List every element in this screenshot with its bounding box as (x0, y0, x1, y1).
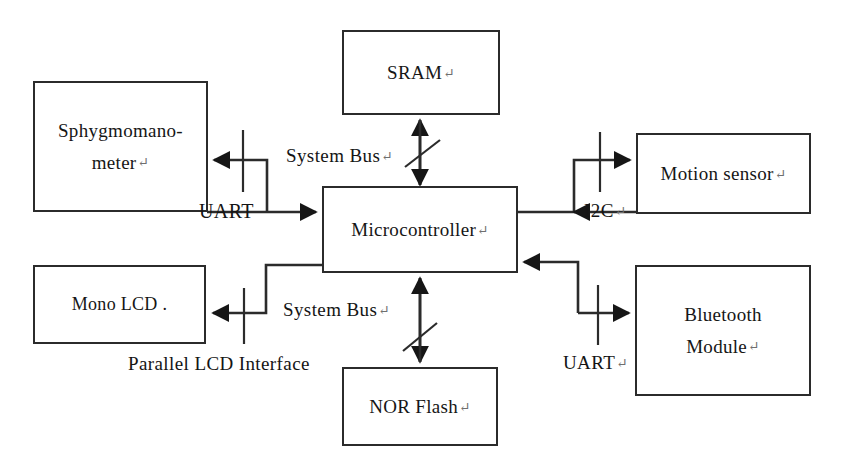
edge-label-system-bus-sram: System Bus↵ (286, 145, 393, 167)
block-bluetooth-module[interactable]: Bluetooth Module↵ (635, 265, 811, 396)
edge-label-system-bus-nor-flash: System Bus↵ (283, 299, 390, 321)
carriage-return-icon: ↵ (442, 66, 455, 81)
block-label-line: Microcontroller↵ (351, 214, 489, 245)
edge-label-i2c-motion-sensor: I2C↵ (584, 200, 627, 222)
block-label-line: Sphygmomano- (58, 115, 183, 146)
carriage-return-icon: ↵ (615, 356, 628, 371)
block-microcontroller[interactable]: Microcontroller↵ (322, 186, 518, 273)
block-sram[interactable]: SRAM↵ (342, 30, 500, 115)
bus-slash-top (405, 140, 440, 167)
carriage-return-icon: ↵ (614, 204, 627, 219)
carriage-return-icon: ↵ (476, 223, 489, 238)
connector-bluetooth-to-mcu (524, 262, 578, 313)
carriage-return-icon: ↵ (137, 155, 150, 170)
block-mono-lcd[interactable]: Mono LCD . (33, 265, 206, 344)
carriage-return-icon: ↵ (458, 400, 471, 415)
carriage-return-icon: ↵ (774, 167, 787, 182)
block-label-line: Module↵ (686, 331, 760, 362)
block-label-line: Motion sensor↵ (661, 158, 787, 189)
block-diagram-canvas: Sphygmomano- meter↵ Mono LCD . SRAM↵ Mic… (0, 0, 841, 474)
edge-label-uart-sphygmomanometer: UART (199, 200, 254, 223)
block-label-line: SRAM↵ (387, 57, 455, 88)
block-label-line: Mono LCD . (72, 290, 168, 320)
block-sphygmomanometer[interactable]: Sphygmomano- meter↵ (33, 81, 208, 212)
carriage-return-icon: ↵ (380, 149, 393, 164)
edge-label-uart-bluetooth: UART↵ (563, 352, 628, 374)
carriage-return-icon: ↵ (747, 339, 760, 354)
block-label-line: NOR Flash↵ (369, 391, 471, 422)
carriage-return-icon: ↵ (377, 303, 390, 318)
block-label-line: meter↵ (92, 147, 150, 178)
block-motion-sensor[interactable]: Motion sensor↵ (636, 133, 811, 214)
block-label-line: Bluetooth (684, 299, 762, 330)
edge-label-parallel-lcd-interface: Parallel LCD Interface (128, 353, 310, 375)
block-nor-flash[interactable]: NOR Flash↵ (342, 367, 498, 446)
